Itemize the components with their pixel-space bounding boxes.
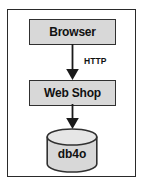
node-browser[interactable]: Browser — [29, 19, 116, 45]
node-db4o[interactable] — [46, 128, 98, 173]
node-browser-label: Browser — [49, 26, 96, 38]
node-web-shop[interactable]: Web Shop — [29, 80, 116, 106]
arrow-webshop-to-db4o-icon — [64, 104, 81, 130]
diagram-canvas: Browser HTTP Web Shop db4o — [0, 0, 142, 185]
node-web-shop-label: Web Shop — [44, 87, 101, 99]
arrow-browser-to-webshop-icon — [64, 44, 81, 81]
edge-label-http: HTTP — [84, 57, 107, 66]
